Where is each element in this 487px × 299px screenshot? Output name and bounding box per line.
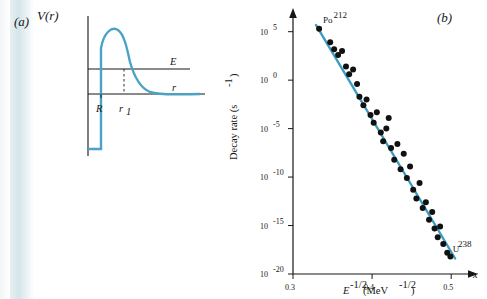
data-point <box>339 48 345 54</box>
data-point <box>447 254 453 260</box>
y-axis-label-close: ) <box>228 73 240 77</box>
data-point <box>432 225 438 231</box>
x-axis-label: E -1/2 (MeV -1/2 ) <box>342 279 416 297</box>
x-tick-label: 0.3 <box>285 283 295 292</box>
y-tick-label-exponent: 0 <box>273 71 277 80</box>
panel-b: (b) 10510010-510-1010-1510-20 0.30.40.5 … <box>215 0 487 299</box>
y-tick-label-mantissa: 10 <box>260 125 268 134</box>
y-tick-label-mantissa: 10 <box>260 76 268 85</box>
data-point <box>350 66 356 72</box>
data-point <box>356 94 362 100</box>
data-point <box>404 175 410 181</box>
panel-a-x-axis-label: r <box>172 82 177 93</box>
x-axis-label-unit-close: ) <box>411 285 415 297</box>
data-point <box>316 26 322 32</box>
data-point <box>343 64 349 70</box>
y-tick-label-mantissa: 10 <box>260 270 268 279</box>
y-tick-label-exponent: -15 <box>273 217 284 226</box>
data-point <box>394 141 400 147</box>
data-point <box>426 217 432 223</box>
data-point <box>417 180 423 186</box>
y-tick-label-exponent: -5 <box>273 120 280 129</box>
annotation-superscript: 212 <box>334 10 348 20</box>
y-tick-label-mantissa: 10 <box>260 173 268 182</box>
annotation-superscript: 238 <box>458 239 472 249</box>
radius-label: R <box>95 103 103 114</box>
potential-curve <box>88 29 200 149</box>
data-point <box>380 138 386 144</box>
data-point <box>360 102 366 108</box>
data-point <box>398 166 404 172</box>
turning-point-subscript: 1 <box>126 106 131 117</box>
data-point <box>420 205 426 211</box>
y-axis-ticks: 10510010-510-1010-1510-20 <box>260 23 293 280</box>
panel-a-y-axis-label: V(r) <box>37 8 59 24</box>
data-point <box>354 81 360 87</box>
annotation-label: Po <box>323 15 333 25</box>
data-point <box>327 39 333 45</box>
x-tick-label: 0.5 <box>443 283 453 292</box>
data-point <box>388 145 394 151</box>
y-tick-label-mantissa: 10 <box>260 222 268 231</box>
turning-point-label: r <box>119 103 124 114</box>
data-point <box>423 199 429 205</box>
data-point <box>386 115 392 121</box>
y-tick-label-exponent: -20 <box>273 265 284 274</box>
data-point <box>383 126 389 132</box>
data-point <box>429 209 435 215</box>
x-axis-label-unit: (MeV <box>363 285 388 297</box>
data-point <box>410 187 416 193</box>
data-point <box>440 241 446 247</box>
x-axis-label-base: E <box>342 285 350 296</box>
y-tick-label-exponent: -10 <box>273 168 284 177</box>
data-point <box>437 224 443 230</box>
data-point <box>401 151 407 157</box>
data-point <box>435 234 441 240</box>
y-axis-label-base: Decay rate (s <box>228 105 240 160</box>
data-point <box>346 71 352 77</box>
decay-rate-scatter-plot: 10510010-510-1010-1510-20 0.30.40.5 Po21… <box>215 0 487 299</box>
x-axis-symbol: x <box>472 269 478 280</box>
y-tick-label-exponent: 5 <box>273 23 277 32</box>
y-tick-label-mantissa: 10 <box>260 28 268 37</box>
data-point <box>374 109 380 115</box>
data-point <box>413 195 419 201</box>
data-point <box>368 112 374 118</box>
energy-level-label: E <box>169 56 177 67</box>
potential-barrier-diagram: r E R r 1 <box>20 6 215 186</box>
data-point <box>371 120 377 126</box>
y-axis-label: Decay rate (s -1 ) <box>223 73 240 160</box>
data-point <box>378 129 384 135</box>
y-axis-label-exponent: -1 <box>223 78 234 87</box>
point-annotations: Po212U238 <box>323 10 472 254</box>
panel-a: (a) r E R r 1 V(r) <box>0 0 215 299</box>
data-point <box>407 163 413 169</box>
data-point <box>331 46 337 52</box>
data-point <box>364 97 370 103</box>
data-point <box>391 157 397 163</box>
